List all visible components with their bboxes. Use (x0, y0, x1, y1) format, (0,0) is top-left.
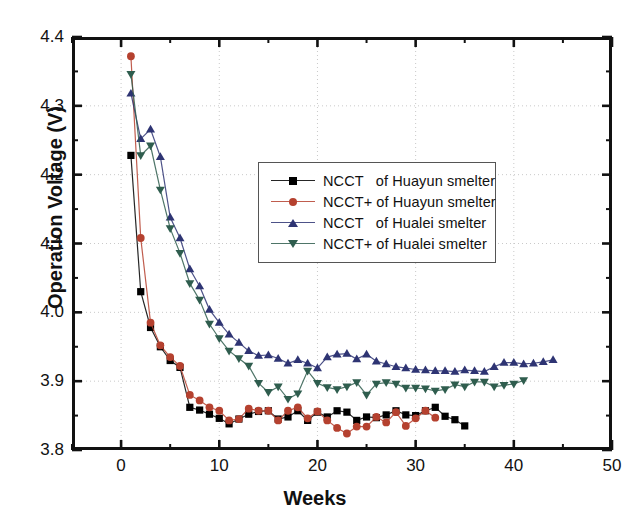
data-point-marker (333, 424, 341, 432)
x-axis-tick-label: 0 (96, 456, 146, 476)
data-point-marker (362, 350, 371, 358)
x-axis-tick-label: 10 (194, 456, 244, 476)
data-point-marker (137, 234, 145, 242)
data-point-marker (480, 379, 489, 387)
legend-marker-icon (288, 240, 298, 248)
data-point-marker (225, 417, 233, 425)
data-point-marker (146, 125, 155, 133)
data-point-marker (147, 319, 155, 327)
data-point-marker (126, 71, 135, 79)
data-point-marker (245, 405, 253, 413)
data-point-marker (205, 305, 214, 313)
data-point-marker (470, 379, 479, 387)
data-point-marker (372, 413, 380, 421)
legend-item-label: NCCT of Huayun smelter (323, 173, 495, 189)
legend-item-4: NCCT+ of Hualei smelter (259, 233, 495, 254)
data-point-marker (412, 414, 420, 422)
data-point-marker (333, 386, 342, 394)
data-point-marker (264, 407, 272, 415)
data-point-marker (431, 388, 440, 396)
data-point-marker (176, 233, 185, 241)
data-point-marker (206, 411, 213, 418)
x-axis-tick-label: 40 (489, 456, 539, 476)
data-point-marker (264, 389, 273, 397)
data-point-marker (490, 383, 499, 391)
data-point-marker (136, 152, 145, 160)
data-point-marker (234, 355, 243, 363)
data-point-marker (383, 411, 390, 418)
legend-item-label: NCCT of Hualei smelter (323, 215, 486, 231)
data-point-marker (343, 430, 351, 438)
data-point-marker (274, 417, 282, 425)
data-point-marker (156, 152, 165, 160)
data-point-marker (166, 225, 175, 233)
legend-item-label: NCCT+ of Huayun smelter (323, 194, 496, 210)
data-point-marker (372, 357, 381, 365)
legend-item-label: NCCT+ of Hualei smelter (323, 236, 487, 252)
chart-legend: NCCT of Huayun smelterNCCT+ of Huayun sm… (258, 162, 496, 263)
data-point-marker (186, 391, 194, 399)
data-point-marker (363, 413, 370, 420)
x-axis-tick-labels: 01020304050 (0, 456, 630, 482)
data-point-marker (127, 152, 134, 159)
data-point-marker (304, 414, 312, 422)
data-point-marker (293, 355, 302, 363)
data-point-marker (363, 423, 371, 431)
data-point-marker (284, 407, 292, 415)
data-point-marker (206, 403, 214, 411)
legend-key-triangle-down-icon (271, 237, 315, 251)
data-point-marker (441, 366, 450, 374)
legend-marker-icon (288, 219, 298, 227)
data-point-marker (235, 415, 243, 423)
data-point-marker (225, 348, 234, 356)
data-point-marker (156, 341, 164, 349)
data-point-marker (195, 297, 204, 305)
data-point-marker (362, 392, 371, 400)
x-axis-title: Weeks (0, 487, 630, 510)
legend-marker-icon (289, 177, 297, 185)
data-point-marker (264, 350, 273, 358)
data-point-marker (244, 363, 253, 371)
data-point-marker (215, 407, 223, 415)
figure-chart-operation-voltage: Operation Voltage (V) 3.83.94.04.14.24.3… (0, 0, 630, 524)
data-point-marker (176, 250, 185, 258)
data-point-marker (392, 408, 400, 416)
data-point-marker (432, 404, 439, 411)
data-point-marker (323, 417, 331, 425)
data-point-marker (402, 411, 409, 418)
x-axis-tick-label: 30 (391, 456, 441, 476)
legend-key-triangle-up-icon (271, 216, 315, 230)
data-point-marker (195, 282, 204, 290)
data-point-marker (352, 355, 361, 363)
data-point-marker (293, 390, 302, 398)
data-point-marker (196, 397, 204, 405)
data-point-marker (333, 407, 340, 414)
data-point-marker (137, 288, 144, 295)
data-point-marker (460, 383, 469, 391)
data-point-marker (186, 404, 193, 411)
data-point-marker (461, 422, 468, 429)
data-point-marker (284, 396, 293, 404)
data-point-marker (382, 419, 390, 427)
data-point-marker (294, 403, 302, 411)
data-point-marker (166, 353, 174, 361)
data-point-marker (509, 358, 518, 366)
data-point-marker (342, 349, 351, 357)
legend-marker-icon (289, 198, 297, 206)
data-point-marker (401, 385, 410, 393)
data-point-marker (353, 423, 361, 431)
data-point-marker (441, 413, 448, 420)
data-point-marker (216, 415, 223, 422)
legend-item-3: NCCT of Hualei smelter (259, 212, 495, 233)
data-point-marker (500, 358, 509, 366)
data-point-marker (460, 366, 469, 374)
legend-item-1: NCCT of Huayun smelter (259, 170, 495, 191)
data-point-marker (431, 414, 439, 422)
data-point-marker (185, 264, 194, 272)
legend-item-2: NCCT+ of Huayun smelter (259, 191, 495, 212)
data-point-marker (402, 422, 410, 430)
data-point-marker (255, 407, 263, 415)
data-point-marker (156, 187, 165, 195)
data-point-marker (343, 409, 350, 416)
x-axis-tick-label: 50 (587, 456, 630, 476)
